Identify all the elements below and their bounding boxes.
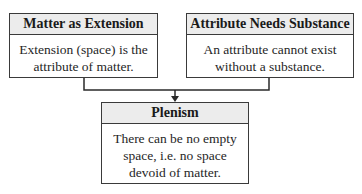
node-body-line: space, i.e. no space	[102, 147, 248, 164]
node-attribute-needs-substance: Attribute Needs Substance An attribute c…	[186, 13, 354, 78]
node-title: Matter as Extension	[10, 14, 157, 35]
node-body-line: without a substance.	[187, 58, 353, 75]
node-body-line: An attribute cannot exist	[187, 41, 353, 58]
node-body: There can be no empty space, i.e. no spa…	[102, 124, 248, 181]
node-plenism: Plenism There can be no empty space, i.e…	[101, 102, 249, 184]
node-body-line: There can be no empty	[102, 130, 248, 147]
node-body-line: attribute of matter.	[10, 58, 157, 75]
node-body-line: Extension (space) is the	[10, 41, 157, 58]
node-body: Extension (space) is the attribute of ma…	[10, 35, 157, 75]
node-body-line: devoid of matter.	[102, 164, 248, 181]
node-body: An attribute cannot exist without a subs…	[187, 35, 353, 75]
node-title: Plenism	[102, 103, 248, 124]
node-title: Attribute Needs Substance	[187, 14, 353, 35]
merge-connector	[84, 78, 269, 90]
node-matter-as-extension: Matter as Extension Extension (space) is…	[9, 13, 158, 78]
